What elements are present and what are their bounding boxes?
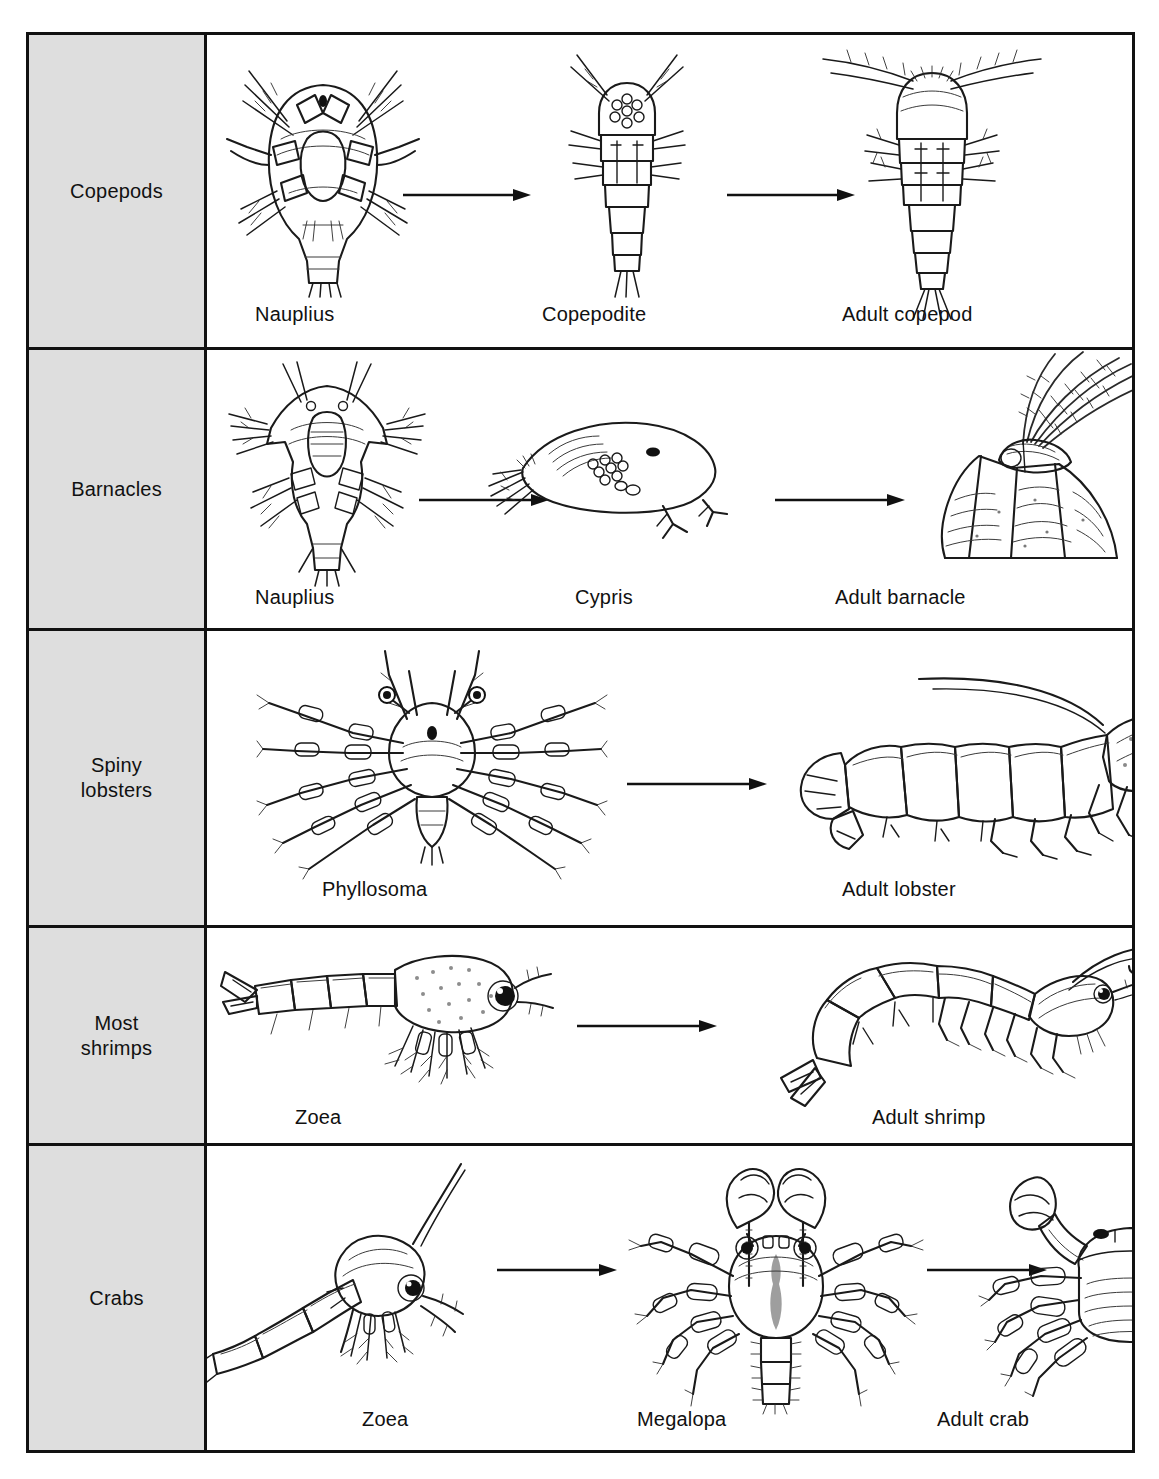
- megalopa-illustration: [621, 1150, 931, 1415]
- crab-zoea-illustration: [207, 1156, 497, 1386]
- stage-caption-zoea-crab: Zoea: [362, 1408, 408, 1431]
- stage-caption-copepodite: Copepodite: [542, 303, 646, 326]
- barnacle-nauplius-illustration: [227, 358, 427, 588]
- arrow-nauplius-to-copepodite: [403, 187, 533, 207]
- cypris-illustration: [487, 410, 747, 550]
- row-label-barnacles: Barnacles: [29, 350, 207, 628]
- stage-caption-megalopa: Megalopa: [637, 1408, 726, 1431]
- adult-copepod-illustration: [817, 35, 1047, 320]
- arrow-phyllosoma-to-adult: [627, 776, 769, 796]
- table-row-copepods: Copepods: [29, 35, 1132, 350]
- stage-caption-adult-crab: Adult crab: [937, 1408, 1029, 1431]
- shrimp-zoea-illustration: [217, 936, 557, 1121]
- row-label-text: Barnacles: [71, 477, 162, 502]
- table-row-barnacles: Barnacles: [29, 350, 1132, 631]
- row-label-text: Crabs: [89, 1286, 143, 1311]
- adult-shrimp-illustration: [747, 932, 1132, 1122]
- row-body-most-shrimps: Zoea Adult shrimp: [207, 928, 1132, 1143]
- stage-caption-nauplius-copepod: Nauplius: [255, 303, 334, 326]
- table-row-most-shrimps: Most shrimps: [29, 928, 1132, 1146]
- stage-caption-adult-copepod: Adult copepod: [842, 303, 972, 326]
- table-row-spiny-lobsters: Spiny lobsters: [29, 631, 1132, 928]
- stage-caption-nauplius-barnacle: Nauplius: [255, 586, 334, 609]
- row-label-copepods: Copepods: [29, 35, 207, 347]
- table-row-crabs: Crabs: [29, 1146, 1132, 1450]
- larval-development-table: Copepods: [26, 32, 1135, 1453]
- row-body-crabs: Zoea Megalopa Adult crab: [207, 1146, 1132, 1450]
- adult-barnacle-illustration: [907, 350, 1132, 580]
- stage-caption-phyllosoma: Phyllosoma: [322, 878, 427, 901]
- row-label-spiny-lobsters: Spiny lobsters: [29, 631, 207, 925]
- row-label-crabs: Crabs: [29, 1146, 207, 1450]
- adult-crab-illustration: [975, 1164, 1132, 1399]
- copepodite-illustration: [547, 49, 707, 299]
- adult-lobster-illustration: [787, 669, 1132, 869]
- arrow-zoea-to-adult-shrimp: [577, 1018, 719, 1038]
- stage-caption-adult-shrimp: Adult shrimp: [872, 1106, 986, 1129]
- stage-caption-zoea-shrimp: Zoea: [295, 1106, 341, 1129]
- row-body-barnacles: Nauplius Cypris Adult barnacle: [207, 350, 1132, 628]
- arrow-cypris-to-adult: [775, 492, 907, 512]
- stage-caption-cypris: Cypris: [575, 586, 633, 609]
- row-label-most-shrimps: Most shrimps: [29, 928, 207, 1143]
- row-body-spiny-lobsters: Phyllosoma Adult lobster: [207, 631, 1132, 925]
- arrow-zoea-to-megalopa: [497, 1262, 619, 1282]
- row-label-text: Spiny lobsters: [81, 753, 153, 803]
- row-label-text: Copepods: [70, 179, 163, 204]
- row-label-text: Most shrimps: [81, 1011, 152, 1061]
- copepod-nauplius-illustration: [219, 43, 429, 298]
- stage-caption-adult-lobster: Adult lobster: [842, 878, 956, 901]
- phyllosoma-illustration: [257, 641, 607, 881]
- row-body-copepods: Nauplius Copepodite Adult copepod: [207, 35, 1132, 347]
- stage-caption-adult-barnacle: Adult barnacle: [835, 586, 966, 609]
